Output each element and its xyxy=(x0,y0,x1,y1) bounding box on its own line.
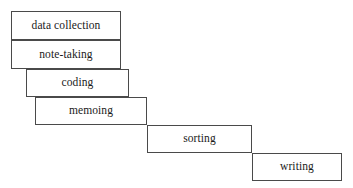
stage-box-data-collection: data collection xyxy=(11,11,121,40)
stage-label-memoing: memoing xyxy=(69,105,113,117)
diagram-canvas: data collectionnote-takingcodingmemoings… xyxy=(0,0,353,188)
stage-label-sorting: sorting xyxy=(183,133,216,145)
stage-label-data-collection: data collection xyxy=(32,19,101,31)
stage-label-writing: writing xyxy=(280,161,314,173)
stage-box-coding: coding xyxy=(26,69,129,97)
stage-box-sorting: sorting xyxy=(147,125,252,153)
stage-box-writing: writing xyxy=(252,153,342,181)
stage-label-note-taking: note-taking xyxy=(39,48,92,60)
stage-box-memoing: memoing xyxy=(35,97,147,125)
stage-label-coding: coding xyxy=(62,77,94,89)
stage-box-note-taking: note-taking xyxy=(11,40,121,69)
